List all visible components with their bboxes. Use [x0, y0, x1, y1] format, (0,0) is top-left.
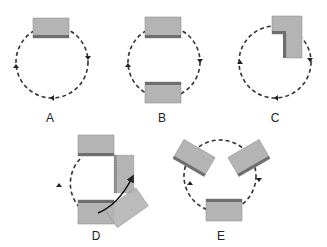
block-bottom — [206, 199, 242, 221]
panel-c: C — [237, 16, 313, 125]
block-top — [145, 17, 181, 38]
arrow-up-icon — [237, 60, 243, 64]
arrow-down-icon — [307, 58, 313, 62]
panel-d: D — [56, 135, 148, 243]
block-top — [78, 135, 114, 156]
arrow-down-icon — [197, 59, 203, 63]
block-shade — [145, 82, 181, 85]
arrow-up-icon — [187, 181, 193, 185]
arrow-up-icon — [125, 63, 131, 67]
block-shade — [206, 199, 242, 202]
panel-b: B — [125, 17, 203, 125]
block-upper-right — [228, 139, 270, 176]
arrow-up-icon — [56, 183, 62, 187]
panel-label-d: D — [92, 229, 101, 243]
arrow-left-icon — [50, 95, 54, 101]
panel-e: E — [173, 139, 270, 243]
panel-label-b: B — [158, 111, 166, 125]
block-shade — [78, 153, 114, 156]
arrow-left-icon — [274, 95, 278, 101]
block-shade — [78, 200, 114, 203]
l-shaped-block — [272, 16, 302, 58]
panel-label-a: A — [46, 111, 54, 125]
block-shade — [114, 155, 117, 193]
block-shade — [145, 35, 181, 38]
arrow-down-icon — [256, 178, 262, 182]
block-bottom — [145, 82, 181, 103]
arrow-down-icon — [85, 56, 91, 60]
block-shade — [33, 35, 69, 38]
block-upper-left — [173, 139, 215, 176]
panel-a: A — [13, 18, 91, 125]
block-shade — [283, 31, 286, 58]
arrow-up-icon — [13, 64, 19, 68]
panel-label-e: E — [217, 229, 225, 243]
panel-label-c: C — [271, 111, 280, 125]
diagram-canvas: A B C D — [0, 0, 327, 247]
